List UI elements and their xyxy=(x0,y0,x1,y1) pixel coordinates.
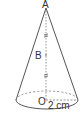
label-apex: A xyxy=(42,0,49,10)
label-midpoint: B xyxy=(35,50,42,61)
cone-diagram: A B O 2 cm xyxy=(0,0,83,115)
cone-right-edge xyxy=(46,8,78,100)
point-b xyxy=(45,54,47,56)
tick-mark-lower-2 xyxy=(44,76,48,77)
tick-mark-upper-2 xyxy=(44,36,48,37)
label-radius: 2 cm xyxy=(48,100,70,111)
label-center: O xyxy=(38,96,46,107)
base-back-arc xyxy=(16,91,78,100)
tick-mark-upper xyxy=(44,34,48,35)
tick-mark-lower xyxy=(44,74,48,75)
